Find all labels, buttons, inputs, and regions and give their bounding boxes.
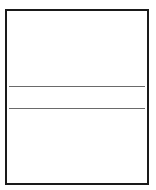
horizontal-divider-lower xyxy=(9,108,145,109)
bordered-box xyxy=(5,9,149,185)
horizontal-divider-upper xyxy=(9,86,145,87)
